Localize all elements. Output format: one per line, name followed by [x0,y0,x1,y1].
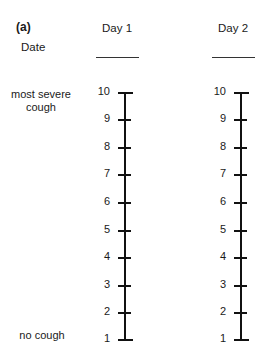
day-2-scale-value-5: 5 [208,223,226,235]
day-2-scale-axis[interactable] [240,92,242,339]
day-2-scale-value-8: 8 [208,140,226,152]
day-1-tick-5[interactable] [118,230,131,232]
day-1-tick-3[interactable] [118,285,131,287]
anchor-bottom-label: no cough [2,329,82,342]
day-1-scale-axis[interactable] [124,92,126,339]
day-1-scale-value-8: 8 [92,140,110,152]
day-1-label: Day 1 [102,22,132,34]
day-2-tick-10[interactable] [234,92,249,94]
day-2-tick-4[interactable] [234,257,247,259]
day-2-scale-value-4: 4 [208,250,226,262]
day-1-date-field[interactable] [96,57,139,58]
day-2-tick-7[interactable] [234,174,247,176]
day-1-scale-value-4: 4 [92,250,110,262]
day-1-scale-value-5: 5 [92,223,110,235]
day-1-scale-value-7: 7 [92,167,110,179]
day-1-tick-2[interactable] [118,312,131,314]
day-2-scale-value-3: 3 [208,278,226,290]
day-1-scale-value-2: 2 [92,305,110,317]
day-1-tick-8[interactable] [118,147,131,149]
day-2-scale-value-9: 9 [208,112,226,124]
day-2-label: Day 2 [218,22,248,34]
day-1-scale-value-10: 10 [92,85,110,97]
date-label: Date [21,41,45,53]
day-1-tick-6[interactable] [118,202,131,204]
day-2-tick-1[interactable] [234,339,249,341]
day-1-tick-7[interactable] [118,174,131,176]
anchor-top-label: most severe cough [1,88,81,114]
day-1-scale-value-1: 1 [92,332,110,344]
day-1-scale-value-9: 9 [92,112,110,124]
day-1-tick-4[interactable] [118,257,131,259]
day-2-scale-value-1: 1 [208,332,226,344]
day-2-tick-5[interactable] [234,230,247,232]
day-1-scale-value-3: 3 [92,278,110,290]
day-2-tick-2[interactable] [234,312,247,314]
day-1-tick-9[interactable] [118,119,131,121]
day-2-tick-8[interactable] [234,147,247,149]
panel-label: (a) [16,20,31,34]
day-2-tick-6[interactable] [234,202,247,204]
day-1-scale-value-6: 6 [92,195,110,207]
day-2-tick-9[interactable] [234,119,247,121]
day-2-date-field[interactable] [212,57,255,58]
day-2-tick-3[interactable] [234,285,247,287]
day-2-scale-value-10: 10 [208,85,226,97]
day-1-tick-10[interactable] [118,92,133,94]
day-2-scale-value-2: 2 [208,305,226,317]
day-1-tick-1[interactable] [118,339,133,341]
day-2-scale-value-7: 7 [208,167,226,179]
day-2-scale-value-6: 6 [208,195,226,207]
